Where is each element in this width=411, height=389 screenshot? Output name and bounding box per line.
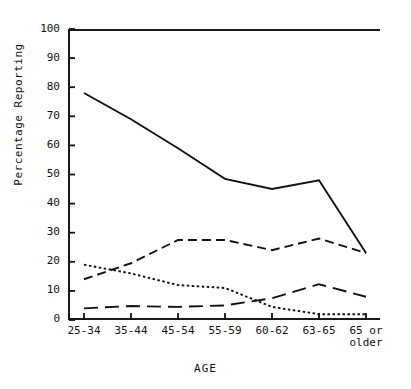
series-paths — [84, 93, 366, 314]
series-line-long-dash-series — [84, 284, 366, 308]
series-line-medium-dash-series — [84, 239, 366, 280]
chart-figure: 100 90 80 70 60 50 40 30 20 10 0 Percent… — [0, 0, 411, 389]
chart-canvas — [0, 0, 411, 389]
y-tick-marks — [69, 29, 75, 320]
series-line-solid-series — [84, 93, 366, 253]
